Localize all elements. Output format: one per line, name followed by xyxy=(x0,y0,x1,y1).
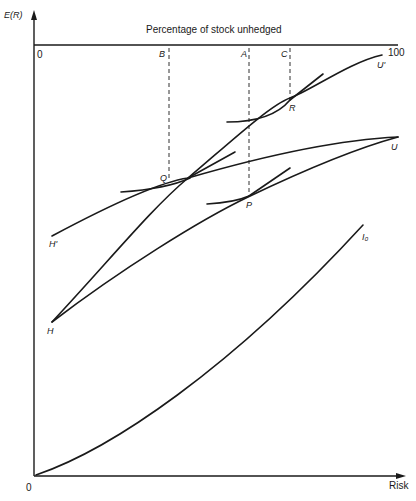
origin-label: 0 xyxy=(26,482,32,493)
marker-A-label: A xyxy=(241,49,247,59)
curve-I0 xyxy=(36,225,363,475)
y-axis-arrow xyxy=(31,10,37,20)
x-axis-label: Risk xyxy=(389,480,408,491)
top-axis-end-label: 100 xyxy=(388,47,405,58)
marker-C-label: C xyxy=(281,49,288,59)
point-R-label: R xyxy=(289,103,296,113)
tangent-P xyxy=(249,168,290,196)
curve-H-prime-U xyxy=(52,137,398,236)
x-axis-arrow xyxy=(396,473,406,479)
diagram-canvas xyxy=(0,0,416,501)
top-axis-start-label: 0 xyxy=(37,49,43,60)
curve-U-prime-label: U' xyxy=(377,60,385,70)
point-Q-label: Q xyxy=(160,173,167,183)
curve-H-U-prime xyxy=(52,55,382,322)
curve-U-label: U xyxy=(391,142,398,152)
curve-H-prime-label: H' xyxy=(49,239,57,249)
top-axis-title: Percentage of stock unhedged xyxy=(146,24,282,35)
y-axis-label: E(R) xyxy=(4,10,23,20)
marker-B-label: B xyxy=(159,49,165,59)
tangent-Q xyxy=(188,152,235,178)
tangent-R xyxy=(290,74,323,100)
curve-H-label: H xyxy=(47,326,54,336)
curve-I0-label: I₀ xyxy=(362,232,368,242)
curve-H-U xyxy=(52,137,398,322)
point-P-label: P xyxy=(246,200,252,210)
